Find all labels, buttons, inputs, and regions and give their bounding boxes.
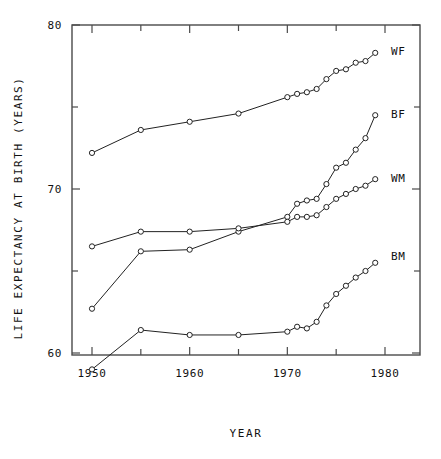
series-path-bf [92, 115, 375, 309]
data-point-bf-1979 [373, 113, 378, 118]
data-point-wm-1971 [295, 214, 300, 219]
data-point-wf-1955 [138, 127, 143, 132]
chart-figure: 1950196019701980 607080 WFBFWMBM YEAR LI… [0, 0, 441, 459]
data-point-bf-1973 [314, 196, 319, 201]
data-point-bm-1979 [373, 260, 378, 265]
x-axis-title: YEAR [230, 427, 263, 440]
data-point-wf-1974 [324, 77, 329, 82]
data-point-wf-1979 [373, 50, 378, 55]
data-point-bf-1976 [343, 160, 348, 165]
data-point-wm-1972 [304, 214, 309, 219]
y-axis-ticks [72, 25, 420, 353]
series-path-wm [92, 179, 375, 246]
data-point-wm-1973 [314, 213, 319, 218]
series-path-wf [92, 53, 375, 153]
series-labels-group: WFBFWMBM [391, 45, 405, 263]
data-point-wf-1971 [295, 91, 300, 96]
data-point-bf-1970 [285, 214, 290, 219]
data-point-wm-1974 [324, 204, 329, 209]
data-point-wf-1972 [304, 90, 309, 95]
series-label-wm: WM [391, 172, 405, 185]
data-point-bm-1975 [334, 291, 339, 296]
data-point-bm-1974 [324, 303, 329, 308]
data-point-bf-1955 [138, 249, 143, 254]
data-point-wm-1978 [363, 183, 368, 188]
data-point-bm-1950 [89, 367, 94, 372]
series-wf [89, 50, 377, 155]
y-tick-label-60: 60 [48, 347, 62, 360]
series-bf [89, 113, 377, 312]
data-point-wf-1977 [353, 60, 358, 65]
data-point-wm-1976 [343, 191, 348, 196]
data-point-bf-1960 [187, 247, 192, 252]
series-wm [89, 177, 377, 249]
plot-frame [72, 25, 420, 355]
x-tick-label-1960: 1960 [175, 367, 204, 380]
y-tick-label-80: 80 [48, 19, 62, 32]
data-point-wm-1965 [236, 226, 241, 231]
data-point-wf-1975 [334, 68, 339, 73]
data-point-wm-1955 [138, 229, 143, 234]
data-point-bm-1971 [295, 324, 300, 329]
data-point-wf-1970 [285, 95, 290, 100]
data-point-bf-1950 [89, 306, 94, 311]
data-point-bm-1960 [187, 332, 192, 337]
x-axis-ticks [92, 25, 385, 355]
series-label-bf: BF [391, 108, 405, 121]
life-expectancy-line-chart: 1950196019701980 607080 WFBFWMBM YEAR LI… [0, 0, 441, 459]
data-point-bm-1970 [285, 329, 290, 334]
x-axis-tick-labels: 1950196019701980 [78, 367, 400, 380]
data-point-bf-1977 [353, 147, 358, 152]
data-point-wm-1970 [285, 219, 290, 224]
data-series-group [89, 50, 377, 372]
data-point-wf-1965 [236, 111, 241, 116]
data-point-bm-1977 [353, 275, 358, 280]
series-label-bm: BM [391, 250, 405, 263]
y-tick-label-70: 70 [48, 183, 62, 196]
data-point-wf-1960 [187, 119, 192, 124]
data-point-wf-1973 [314, 86, 319, 91]
data-point-wm-1960 [187, 229, 192, 234]
data-point-wm-1979 [373, 177, 378, 182]
x-tick-label-1980: 1980 [371, 367, 400, 380]
data-point-bf-1974 [324, 181, 329, 186]
data-point-wf-1976 [343, 67, 348, 72]
y-axis-title: LIFE EXPECTANCY AT BIRTH (YEARS) [12, 76, 25, 339]
data-point-bm-1955 [138, 327, 143, 332]
data-point-bm-1965 [236, 332, 241, 337]
data-point-wf-1950 [89, 150, 94, 155]
series-label-wf: WF [391, 45, 405, 58]
data-point-wm-1975 [334, 196, 339, 201]
y-axis-tick-labels: 607080 [48, 19, 62, 360]
data-point-bf-1972 [304, 198, 309, 203]
data-point-wm-1950 [89, 244, 94, 249]
data-point-bm-1978 [363, 268, 368, 273]
data-point-bm-1976 [343, 283, 348, 288]
data-point-bf-1971 [295, 201, 300, 206]
data-point-wm-1977 [353, 186, 358, 191]
data-point-bf-1978 [363, 136, 368, 141]
series-path-bm [92, 263, 375, 370]
data-point-bm-1972 [304, 326, 309, 331]
data-point-bm-1973 [314, 319, 319, 324]
x-tick-label-1970: 1970 [273, 367, 302, 380]
data-point-wf-1978 [363, 58, 368, 63]
data-point-bf-1975 [334, 165, 339, 170]
